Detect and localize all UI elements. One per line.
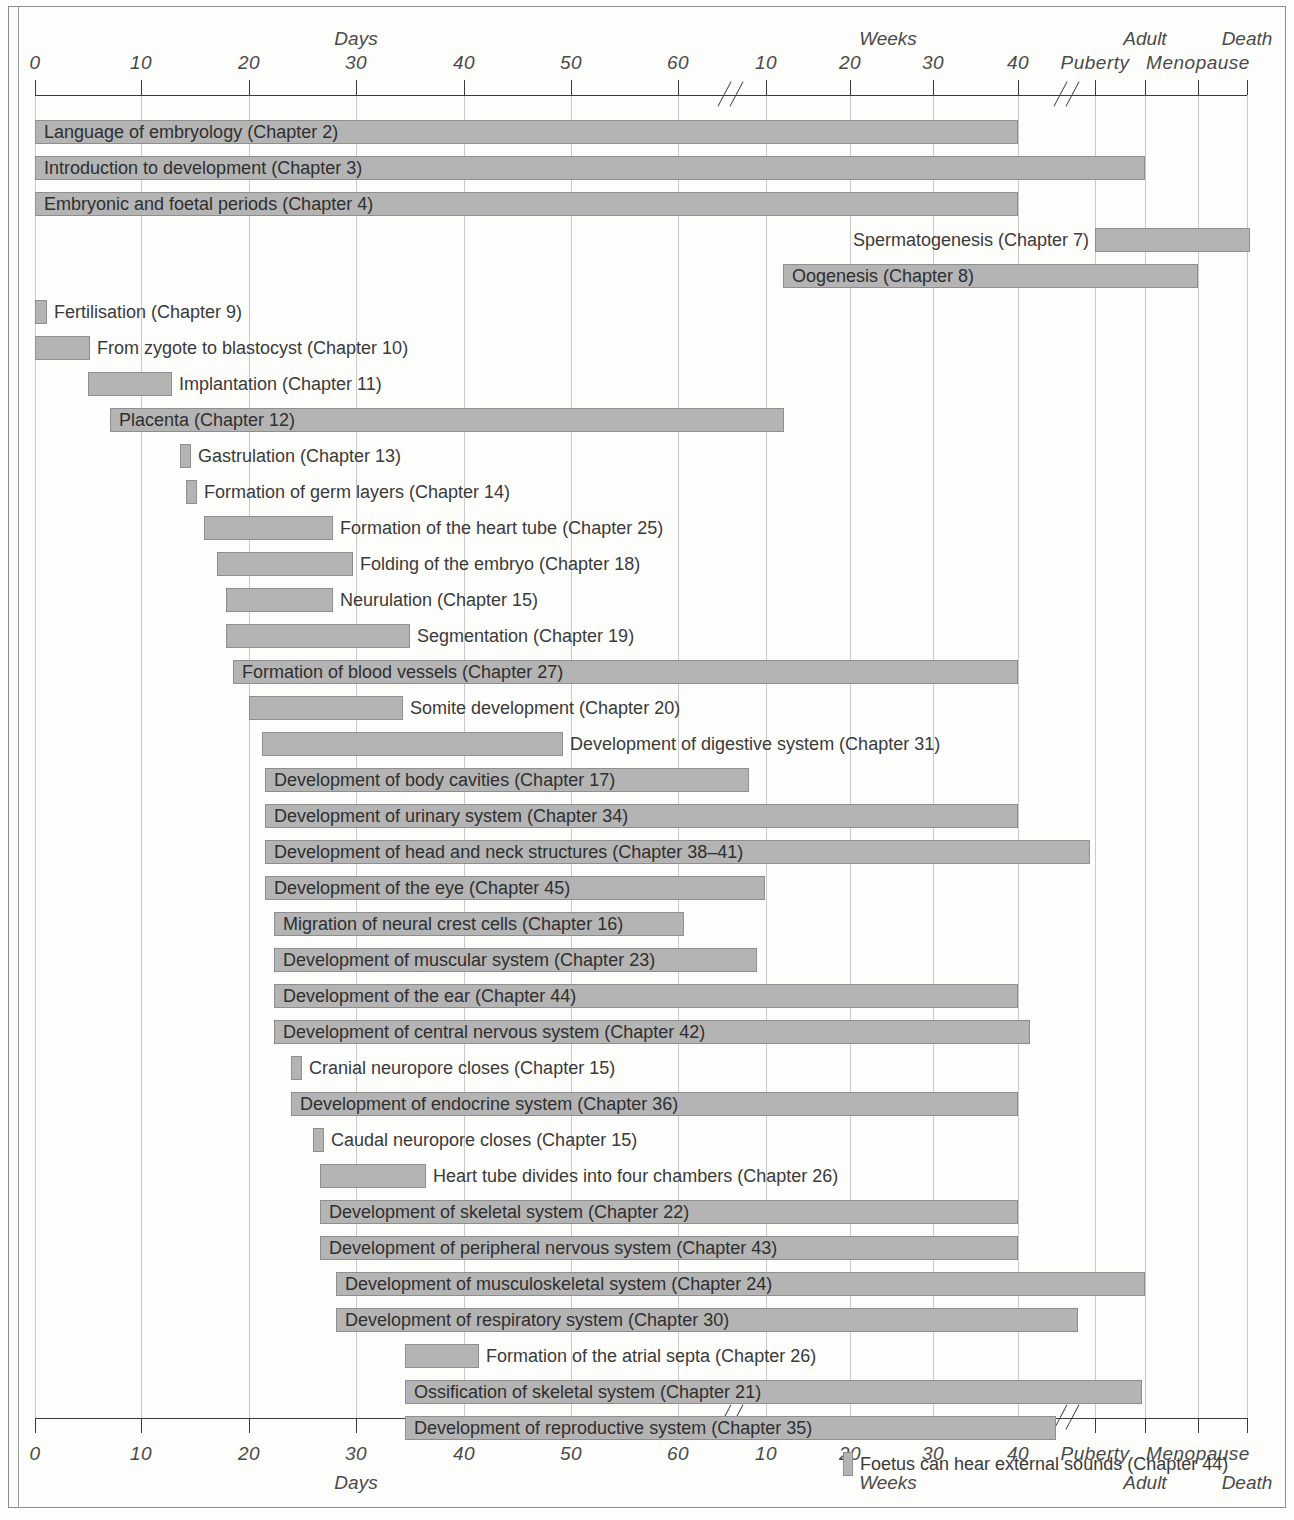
gridline	[249, 95, 250, 1418]
gantt-bar-label: Development of musculoskeletal system (C…	[345, 1272, 772, 1296]
gantt-bar-label: Development of skeletal system (Chapter …	[329, 1200, 689, 1224]
gantt-bar	[320, 1164, 426, 1188]
gantt-bar-label: Segmentation (Chapter 19)	[417, 624, 634, 648]
axis-tick-label: 30	[345, 52, 367, 74]
gantt-bar	[262, 732, 563, 756]
break-stroke	[1053, 81, 1067, 106]
gantt-bar-label: Development of the ear (Chapter 44)	[283, 984, 576, 1008]
gantt-bar	[291, 1056, 302, 1080]
chart-page: 0010102020303040405050606010102020303040…	[0, 0, 1294, 1520]
gantt-bar-label: Neurulation (Chapter 15)	[340, 588, 538, 612]
axis-tick	[141, 1418, 142, 1433]
axis-tick	[1198, 80, 1199, 95]
axis-unit-label: Days	[334, 1472, 377, 1494]
gantt-bar-label: Development of central nervous system (C…	[283, 1020, 705, 1044]
axis-stage-label: Death	[1222, 28, 1273, 50]
axis-tick-label: 40	[1007, 52, 1029, 74]
axis-tick	[356, 80, 357, 95]
gantt-bar-label: Formation of blood vessels (Chapter 27)	[242, 660, 563, 684]
gantt-bar	[1095, 228, 1250, 252]
gantt-bar-label: Development of peripheral nervous system…	[329, 1236, 777, 1260]
gantt-bar-label: Folding of the embryo (Chapter 18)	[360, 552, 640, 576]
axis-tick	[249, 1418, 250, 1433]
axis-tick-label: 60	[667, 52, 689, 74]
gantt-bar-label: Introduction to development (Chapter 3)	[44, 156, 362, 180]
gantt-bar	[35, 336, 90, 360]
gantt-bar-label: Development of muscular system (Chapter …	[283, 948, 655, 972]
axis-tick	[35, 80, 36, 95]
gantt-bar-label: Development of endocrine system (Chapter…	[300, 1092, 678, 1116]
axis-tick	[571, 80, 572, 95]
gantt-bar-label: Development of reproductive system (Chap…	[414, 1416, 812, 1440]
axis-tick	[933, 80, 934, 95]
gantt-bar-label: Embryonic and foetal periods (Chapter 4)	[44, 192, 373, 216]
gantt-bar-label: Development of digestive system (Chapter…	[570, 732, 940, 756]
gantt-bar-label: Implantation (Chapter 11)	[179, 372, 382, 396]
gantt-bar	[204, 516, 333, 540]
gantt-bar-label: Cranial neuropore closes (Chapter 15)	[309, 1056, 615, 1080]
axis-tick-label: 20	[238, 52, 260, 74]
gantt-bar	[226, 588, 333, 612]
axis-tick	[678, 80, 679, 95]
gantt-bar-label: Gastrulation (Chapter 13)	[198, 444, 401, 468]
top-axis-line	[35, 95, 1247, 96]
axis-tick-label: 0	[29, 1443, 40, 1465]
axis-tick-label: 10	[755, 52, 777, 74]
axis-tick	[1247, 80, 1248, 95]
axis-tick-label: 50	[560, 1443, 582, 1465]
gantt-bar-label: Fertilisation (Chapter 9)	[54, 300, 242, 324]
gantt-bar-label: Spermatogenesis (Chapter 7)	[853, 228, 1089, 252]
gantt-bar	[226, 624, 410, 648]
axis-tick	[766, 80, 767, 95]
gantt-bar	[186, 480, 197, 504]
axis-tick	[1145, 80, 1146, 95]
break-stroke	[717, 81, 731, 106]
axis-tick	[249, 80, 250, 95]
gantt-bar-label: Formation of the heart tube (Chapter 25)	[340, 516, 663, 540]
gantt-bar-label: Formation of the atrial septa (Chapter 2…	[486, 1344, 816, 1368]
axis-tick	[141, 80, 142, 95]
axis-tick	[356, 1418, 357, 1433]
axis-tick	[1198, 1418, 1199, 1433]
gridline	[35, 95, 36, 1418]
axis-tick-label: Menopause	[1146, 52, 1250, 74]
gantt-bar-label: Language of embryology (Chapter 2)	[44, 120, 338, 144]
axis-tick	[35, 1418, 36, 1433]
axis-tick	[850, 80, 851, 95]
gantt-bar-label: Ossification of skeletal system (Chapter…	[414, 1380, 761, 1404]
gantt-bar	[217, 552, 353, 576]
axis-tick-label: 50	[560, 52, 582, 74]
gantt-bar	[313, 1128, 324, 1152]
axis-tick	[1095, 1418, 1096, 1433]
axis-tick-label: 30	[345, 1443, 367, 1465]
gridline	[1095, 95, 1096, 1418]
gantt-bar-label: Oogenesis (Chapter 8)	[792, 264, 974, 288]
break-stroke	[729, 81, 743, 106]
gantt-bar-label: Development of the eye (Chapter 45)	[274, 876, 570, 900]
axis-stage-label: Death	[1222, 1472, 1273, 1494]
break-stroke	[1065, 1404, 1079, 1429]
gantt-bar-label: Development of urinary system (Chapter 3…	[274, 804, 628, 828]
axis-tick-label: 60	[667, 1443, 689, 1465]
gantt-bar-label: From zygote to blastocyst (Chapter 10)	[97, 336, 408, 360]
gridline	[1018, 95, 1019, 1418]
gantt-bar-label: Somite development (Chapter 20)	[410, 696, 680, 720]
gridline	[1247, 95, 1248, 1418]
axis-tick-label: 10	[130, 1443, 152, 1465]
gantt-bar-label: Foetus can hear external sounds (Chapter…	[860, 1452, 1228, 1476]
gantt-bar	[405, 1344, 479, 1368]
axis-tick-label: 0	[29, 52, 40, 74]
axis-tick	[1018, 80, 1019, 95]
axis-unit-label: Weeks	[859, 28, 917, 50]
axis-tick-label: 20	[839, 52, 861, 74]
gridline	[141, 95, 142, 1418]
axis-tick	[464, 80, 465, 95]
axis-tick-label: 10	[130, 52, 152, 74]
gantt-bar-label: Formation of germ layers (Chapter 14)	[204, 480, 510, 504]
axis-tick-label: 40	[453, 1443, 475, 1465]
axis-tick-label: 20	[238, 1443, 260, 1465]
axis-tick	[1145, 1418, 1146, 1433]
break-stroke	[1065, 81, 1079, 106]
axis-unit-label: Days	[334, 28, 377, 50]
gridline	[1198, 95, 1199, 1418]
